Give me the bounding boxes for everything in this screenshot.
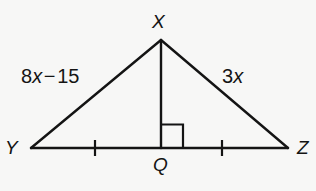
vertex-label-x: X xyxy=(152,12,165,31)
vertex-label-y: Y xyxy=(5,138,18,157)
left-operator: − xyxy=(44,65,56,87)
left-constant: 15 xyxy=(57,65,79,87)
left-coefficient: 8 xyxy=(21,65,32,87)
vertex-label-q: Q xyxy=(153,155,168,174)
left-variable: x xyxy=(32,65,42,87)
right-angle-square-at-q xyxy=(162,125,184,148)
geometry-figure: X Y Z Q 8x − 15 3x xyxy=(0,0,316,191)
side-xy-line xyxy=(31,40,161,148)
right-variable: x xyxy=(233,65,243,87)
side-xz-line xyxy=(161,40,288,148)
side-length-label-xy: 8x − 15 xyxy=(21,66,79,86)
vertex-label-z: Z xyxy=(297,138,309,157)
side-length-label-xz: 3x xyxy=(222,66,243,86)
right-coefficient: 3 xyxy=(222,65,233,87)
